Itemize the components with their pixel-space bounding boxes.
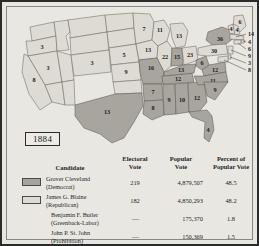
header-percent-line1: Percent of xyxy=(203,155,259,163)
state-label-co: 3 xyxy=(90,59,93,66)
header-percent-line2: Popular Vote xyxy=(203,163,259,171)
state-label-pa: 30 xyxy=(211,47,217,54)
state-label-ne: 5 xyxy=(122,51,125,58)
state-label-tn: 12 xyxy=(175,75,181,82)
percent-value: 48.5 xyxy=(203,179,259,186)
popular-vote-value: 150,369 xyxy=(155,233,203,240)
state-label-ia: 13 xyxy=(145,46,151,53)
callout-label-ma: 14 xyxy=(248,31,254,37)
state-label-wi: 11 xyxy=(157,26,163,33)
state-label-sc: 9 xyxy=(213,86,216,93)
legend-swatch-republican xyxy=(22,196,41,204)
callout-label-de: 3 xyxy=(248,60,251,66)
header-electoral-vote: Electoral Vote xyxy=(113,155,157,170)
header-percent: Percent of Popular Vote xyxy=(203,155,259,170)
state-label-nh: 4 xyxy=(235,26,238,33)
table-row: Grover Cleveland (Democrat) 219 4,879,50… xyxy=(13,175,259,193)
leader-line-de xyxy=(230,57,246,63)
figure-inner-border: .rep{fill:#dedbd4;stroke:#6e6b64;stroke-… xyxy=(6,6,253,240)
state-label-vt: 4 xyxy=(229,25,232,32)
callout-label-md: 8 xyxy=(248,67,251,73)
leader-line-md xyxy=(224,60,246,70)
state-label-wv: 6 xyxy=(200,59,203,66)
candidate-party: (Democrat) xyxy=(46,183,116,191)
header-popular-vote-line1: Popular xyxy=(159,155,203,163)
state-label-al: 10 xyxy=(179,96,185,103)
popular-vote-value: 4,879,507 xyxy=(155,179,203,186)
percent-value: 1.8 xyxy=(203,215,259,222)
state-label-ks: 9 xyxy=(124,68,127,75)
state-label-ny: 36 xyxy=(217,35,223,42)
candidate-cell: Grover Cleveland (Democrat) xyxy=(46,175,116,191)
popular-vote-value: 4,850,293 xyxy=(155,197,203,204)
candidate-name: James G. Blaine xyxy=(46,193,116,201)
state-ct xyxy=(234,40,241,44)
table-row: John P. St. John (Prohibition) — 150,369… xyxy=(13,229,259,246)
electoral-vote-value: — xyxy=(113,233,157,241)
results-table: Candidate Electoral Vote Popular Vote Pe… xyxy=(13,154,259,246)
state-label-or: 3 xyxy=(40,43,43,50)
electoral-vote-value: 182 xyxy=(113,197,157,204)
leader-line-ct xyxy=(238,43,246,49)
state-label-nv: 3 xyxy=(46,64,49,71)
state-ma xyxy=(230,34,244,40)
candidate-name: John P. St. John xyxy=(51,229,117,237)
electoral-vote-value: — xyxy=(113,215,157,223)
state-label-il: 22 xyxy=(162,53,168,60)
candidate-cell: Benjamin F. Butler (Greenback-Labor) xyxy=(51,211,117,227)
candidate-party: (Republican) xyxy=(46,201,116,209)
callout-label-ct: 6 xyxy=(248,46,251,52)
candidate-name: Grover Cleveland xyxy=(46,175,116,183)
state-label-fl: 4 xyxy=(206,126,209,133)
figure-frame: .rep{fill:#dedbd4;stroke:#6e6b64;stroke-… xyxy=(0,0,259,246)
state-label-mn: 7 xyxy=(142,25,145,32)
percent-value: 1.5 xyxy=(203,233,259,240)
candidate-name: Benjamin F. Butler xyxy=(51,211,117,219)
state-label-ga: 12 xyxy=(194,94,200,101)
electoral-vote-value: 219 xyxy=(113,179,157,186)
year-label: 1884 xyxy=(25,132,60,146)
state-label-in: 15 xyxy=(174,53,180,60)
state-tx xyxy=(75,93,143,143)
territory-ok xyxy=(113,80,142,94)
candidate-party: (Greenback-Labor) xyxy=(51,219,117,227)
popular-vote-value: 175,370 xyxy=(155,215,203,222)
header-electoral-vote-line1: Electoral xyxy=(113,155,157,163)
header-popular-vote: Popular Vote xyxy=(159,155,203,170)
state-nj xyxy=(228,46,233,54)
percent-value: 48.2 xyxy=(203,197,259,204)
state-label-oh: 23 xyxy=(187,51,193,58)
header-candidate: Candidate xyxy=(27,164,113,172)
candidate-cell: James G. Blaine (Republican) xyxy=(46,193,116,209)
callout-label-nj: 9 xyxy=(248,53,251,59)
candidate-party: (Prohibition) xyxy=(51,237,117,245)
state-label-mi: 13 xyxy=(176,32,182,39)
table-header-row: Candidate Electoral Vote Popular Vote Pe… xyxy=(13,154,259,174)
state-label-mo: 16 xyxy=(148,64,154,71)
state-fl xyxy=(189,110,214,142)
legend-swatch-democrat xyxy=(22,178,41,186)
candidate-cell: John P. St. John (Prohibition) xyxy=(51,229,117,245)
state-label-va: 12 xyxy=(212,66,218,73)
table-row: James G. Blaine (Republican) 182 4,850,2… xyxy=(13,193,259,211)
table-row: Benjamin F. Butler (Greenback-Labor) — 1… xyxy=(13,211,259,229)
header-electoral-vote-line2: Vote xyxy=(113,163,157,171)
state-label-ky: 13 xyxy=(178,66,184,73)
state-label-ms: 9 xyxy=(167,96,170,103)
state-label-me: 6 xyxy=(238,18,241,25)
header-popular-vote-line2: Vote xyxy=(159,163,203,171)
state-label-tx: 13 xyxy=(104,108,110,115)
callout-label-ri: 4 xyxy=(248,39,251,45)
state-label-ca: 8 xyxy=(32,76,35,83)
state-label-ar: 7 xyxy=(151,88,154,95)
state-label-la: 8 xyxy=(151,104,154,111)
